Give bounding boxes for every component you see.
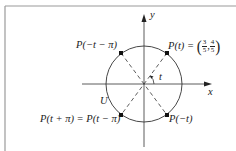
label-p-t-plus-pi: P(t + π) = P(t − π) [40, 114, 120, 125]
angle-arrow-icon [150, 76, 154, 79]
fraction-x: 35 [202, 39, 207, 54]
fraction-x-denominator: 5 [202, 47, 207, 54]
y-axis-arrow-icon [142, 14, 147, 22]
unit-circle-figure: y x t U P(t) = (35,45) P(−t − π) P(t + π… [0, 0, 236, 151]
label-p-t-prefix: P(t) = [168, 40, 197, 51]
fraction-y-denominator: 5 [210, 47, 215, 54]
label-p-neg-t-minus-pi: P(−t − π) [76, 40, 117, 51]
x-axis-label: x [208, 87, 213, 98]
left-paren: ( [197, 38, 202, 55]
angle-label: t [159, 72, 162, 83]
circle-label: U [100, 96, 108, 107]
label-p-neg-t: P(−t) [169, 114, 192, 125]
y-axis-label: y [150, 10, 155, 21]
right-paren: ) [215, 38, 220, 55]
label-p-t: P(t) = (35,45) [168, 39, 220, 54]
diagram-canvas [0, 0, 236, 151]
fraction-y: 45 [210, 39, 215, 54]
point-p-neg-t-minus-pi [119, 51, 123, 55]
